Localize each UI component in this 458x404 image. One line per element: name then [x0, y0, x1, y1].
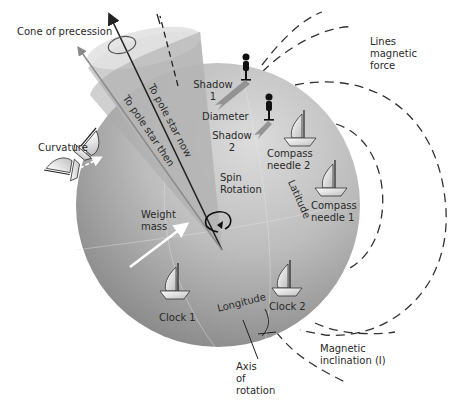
label-compass-needle-2: Compass needle 2 — [267, 148, 313, 172]
label-lines-magnetic-force: Lines magnetic force — [370, 36, 417, 72]
label-cone-of-precession: Cone of precession — [17, 26, 112, 38]
sailboat-icon-curvature-far — [43, 154, 80, 182]
label-diameter: Diameter — [202, 111, 249, 123]
label-clock-1: Clock 1 — [159, 312, 196, 324]
label-compass-needle-1: Compass needle 1 — [311, 200, 357, 224]
label-axis-of-rotation: Axis of rotation — [236, 361, 275, 397]
earth-diagram: Cone of precession Lines magnetic force … — [0, 0, 458, 404]
label-shadow-1: Shadow 1 — [193, 79, 233, 103]
label-weight-mass: Weight mass — [141, 209, 176, 233]
label-clock-2: Clock 2 — [269, 301, 306, 313]
label-magnetic-inclination: Magnetic inclination (I) — [320, 343, 386, 367]
label-curvature: Curvature — [38, 142, 88, 154]
label-shadow-2: Shadow 2 — [212, 130, 252, 154]
label-spin-rotation: Spin Rotation — [220, 172, 262, 196]
